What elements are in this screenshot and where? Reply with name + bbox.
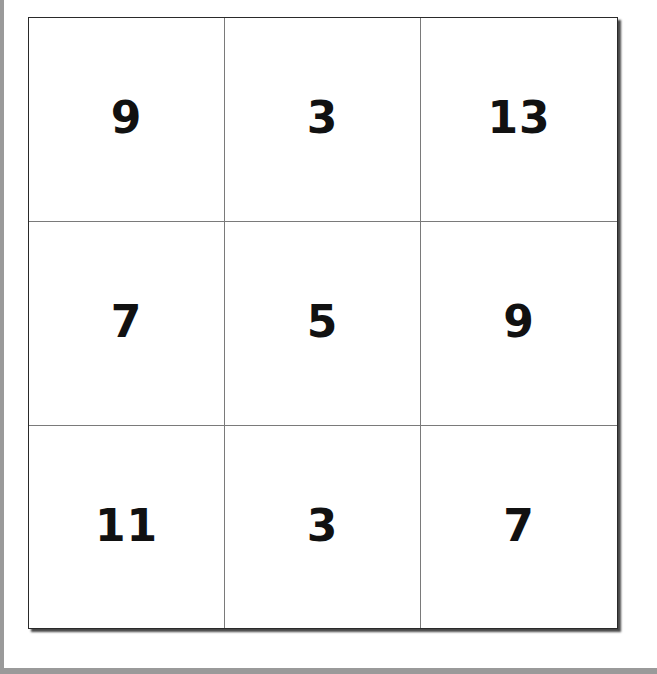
grid-cell-r3-c3: 7 bbox=[421, 426, 617, 628]
grid-cell-r2-c1: 7 bbox=[29, 222, 225, 426]
cell-number: 9 bbox=[503, 296, 535, 347]
grid-cell-r3-c2: 3 bbox=[225, 426, 421, 628]
cell-number: 3 bbox=[307, 92, 339, 143]
grid-cell-r1-c1: 9 bbox=[29, 18, 225, 222]
cell-number: 7 bbox=[503, 500, 535, 551]
page-frame-bottom-edge bbox=[0, 668, 657, 674]
grid-cell-r2-c2: 5 bbox=[225, 222, 421, 426]
grid-cell-r2-c3: 9 bbox=[421, 222, 617, 426]
cell-number: 9 bbox=[111, 92, 143, 143]
number-grid: 9 3 13 7 5 9 11 3 7 bbox=[28, 17, 618, 629]
grid-cell-r3-c1: 11 bbox=[29, 426, 225, 628]
page-frame-left-edge bbox=[0, 0, 4, 674]
grid-cell-r1-c2: 3 bbox=[225, 18, 421, 222]
cell-number: 13 bbox=[487, 92, 550, 143]
grid-cell-r1-c3: 13 bbox=[421, 18, 617, 222]
cell-number: 5 bbox=[307, 296, 339, 347]
cell-number: 7 bbox=[111, 296, 143, 347]
cell-number: 3 bbox=[307, 500, 339, 551]
cell-number: 11 bbox=[95, 500, 158, 551]
